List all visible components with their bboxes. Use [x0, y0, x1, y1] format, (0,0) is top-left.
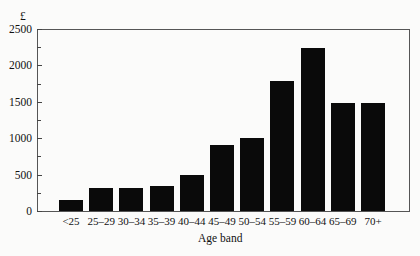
- bar-55–59: [270, 81, 294, 211]
- y-minor-tick: [37, 120, 41, 121]
- y-minor-tick: [37, 47, 41, 48]
- y-major-tick: [37, 175, 42, 176]
- y-axis-unit-label: £: [20, 10, 26, 22]
- bar-65–69: [331, 103, 355, 211]
- bar-35–39: [150, 186, 174, 211]
- y-tick-label: 1500: [2, 96, 32, 108]
- x-tick-label: 65–69: [326, 215, 360, 227]
- x-tick-label: 25–29: [84, 215, 118, 227]
- x-tick-label: 55–59: [265, 215, 299, 227]
- x-tick-label: <25: [54, 215, 88, 227]
- x-tick-label: 30–34: [114, 215, 148, 227]
- y-major-tick: [37, 65, 42, 66]
- bar-70+: [361, 103, 385, 211]
- x-tick-label: 45–49: [205, 215, 239, 227]
- x-tick-label: 50–54: [235, 215, 269, 227]
- bar-<25: [59, 200, 83, 211]
- y-tick-label: 1000: [2, 132, 32, 144]
- y-tick-label: 2000: [2, 59, 32, 71]
- y-major-tick: [37, 138, 42, 139]
- y-major-tick: [37, 211, 42, 212]
- bar-60–64: [301, 48, 325, 211]
- y-minor-tick: [37, 193, 41, 194]
- x-axis-title: Age band: [198, 232, 242, 244]
- bar-40–44: [180, 175, 204, 211]
- bar-45–49: [210, 145, 234, 211]
- bar-50–54: [240, 138, 264, 211]
- x-tick-label: 35–39: [145, 215, 179, 227]
- y-major-tick: [37, 29, 42, 30]
- bar-chart: £ 05001000150020002500 <2525–2930–3435–3…: [0, 0, 420, 256]
- y-major-tick: [37, 102, 42, 103]
- x-tick-label: 60–64: [296, 215, 330, 227]
- y-minor-tick: [37, 84, 41, 85]
- y-tick-label: 2500: [2, 23, 32, 35]
- y-tick-label: 500: [2, 169, 32, 181]
- bar-30–34: [119, 188, 143, 211]
- x-tick-label: 40–44: [175, 215, 209, 227]
- y-minor-tick: [37, 156, 41, 157]
- x-tick-label: 70+: [356, 215, 390, 227]
- bar-25–29: [89, 188, 113, 211]
- y-tick-label: 0: [2, 205, 32, 217]
